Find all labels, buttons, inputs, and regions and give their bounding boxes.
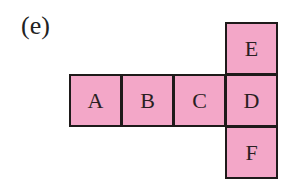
square-label: D — [244, 88, 260, 114]
figure-label: (e) — [21, 13, 50, 39]
net-square-b: B — [121, 74, 174, 127]
square-label: A — [88, 88, 104, 114]
square-label: E — [245, 36, 258, 62]
net-square-f: F — [225, 126, 278, 179]
net-square-c: C — [173, 74, 226, 127]
net-square-a: A — [69, 74, 122, 127]
net-square-e: E — [225, 22, 278, 75]
square-label: F — [245, 140, 257, 166]
net-square-d: D — [225, 74, 278, 127]
square-label: B — [140, 88, 155, 114]
square-label: C — [192, 88, 207, 114]
